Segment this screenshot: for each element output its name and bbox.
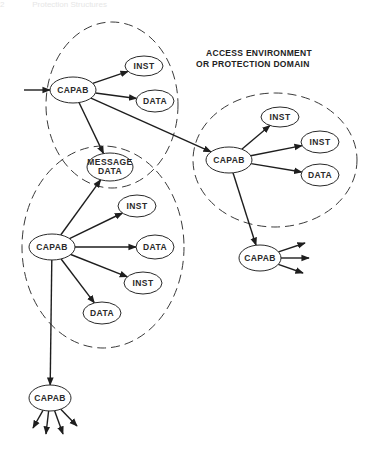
node-capab-left: CAPAB (29, 234, 75, 260)
node-inst-right-2: INST (301, 131, 339, 153)
arrow-capab-left-to-inst-left-2 (71, 255, 128, 277)
arrow-capab-top-to-data-top (95, 93, 136, 99)
arrow-capab-bottom-to-outgoing-2 (46, 411, 49, 434)
node-label: INST (310, 137, 331, 147)
node-inst-left-2: INST (124, 272, 162, 294)
node-label: CAPAB (57, 85, 89, 95)
node-capab-bottom: CAPAB (29, 385, 71, 411)
node-label: CAPAB (34, 393, 66, 403)
node-label: INST (270, 112, 291, 122)
node-capab-top: CAPAB (50, 77, 96, 103)
arrow-capab-right-to-inst-right-2 (251, 146, 302, 156)
node-label: DATA (90, 308, 114, 318)
arrow-capab-bottom-to-outgoing-3 (55, 411, 63, 434)
arrow-capab-right-to-capab-right-lower (233, 173, 256, 245)
arrow-capab-right-to-data-right (251, 164, 302, 172)
node-label: INST (134, 61, 155, 71)
domains-layer (22, 22, 357, 348)
annotation-line-1: ACCESS ENVIRONMENT (206, 48, 313, 58)
arrow-capab-right-lower-to-outgoing-3 (278, 264, 303, 273)
node-data-right: DATA (301, 164, 339, 186)
node-label: DATA (143, 242, 167, 252)
node-inst-right-1: INST (261, 107, 299, 127)
node-label: DATA (143, 96, 167, 106)
node-inst-left-1: INST (118, 195, 156, 217)
node-capab-right: CAPAB (206, 147, 252, 173)
node-data-left-1: DATA (136, 235, 174, 259)
node-message-data: MESSAGEDATA (87, 153, 133, 181)
node-inst-top: INST (125, 56, 163, 76)
annotation-line-2: OR PROTECTION DOMAIN (196, 59, 310, 69)
nodes-layer: CAPABINSTDATAMESSAGEDATACAPABINSTDATAINS… (29, 56, 339, 411)
node-data-top: DATA (136, 90, 174, 112)
domain-annotation: ACCESS ENVIRONMENT OR PROTECTION DOMAIN (196, 48, 313, 69)
arrow-capab-right-to-inst-right-1 (242, 126, 270, 150)
arrow-capab-top-to-message-data (79, 103, 104, 154)
node-label: CAPAB (244, 253, 276, 263)
node-label: CAPAB (36, 242, 68, 252)
arrow-capab-right-lower-to-outgoing-1 (279, 243, 306, 252)
node-label: CAPAB (213, 155, 245, 165)
arrow-capab-bottom-to-outgoing-4 (61, 409, 77, 426)
arrow-capab-top-to-inst-top (93, 71, 128, 83)
node-label: INST (133, 278, 154, 288)
arrow-capab-left-to-inst-left-1 (70, 213, 123, 239)
node-label: DATA (98, 166, 122, 176)
node-label: INST (127, 201, 148, 211)
node-data-left-2: DATA (83, 302, 121, 324)
arrow-capab-left-to-capab-bottom (50, 260, 52, 385)
node-capab-right-lower: CAPAB (239, 245, 281, 271)
arrow-capab-bottom-to-outgoing-1 (33, 410, 43, 428)
capability-diagram: CAPABINSTDATAMESSAGEDATACAPABINSTDATAINS… (0, 0, 372, 452)
arrow-capab-left-to-data-left-2 (61, 259, 94, 303)
node-label: DATA (308, 170, 332, 180)
